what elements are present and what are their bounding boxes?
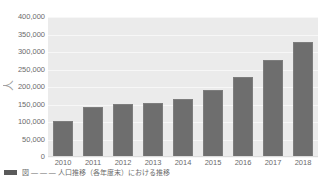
- bar-slot: [258, 17, 288, 157]
- bar-2017: [263, 60, 283, 157]
- y-axis-tick-labels: 050,000100,000150,000200,000250,000300,0…: [0, 0, 45, 176]
- bar-2011: [83, 107, 103, 157]
- x-axis-baseline: [48, 156, 318, 157]
- y-tick-label: 350,000: [1, 31, 45, 39]
- x-tick-label: 2012: [108, 158, 138, 168]
- figure-caption: 図 ― ― ― 人口推移（各年度末）における推移: [4, 169, 318, 176]
- bar-slot: [168, 17, 198, 157]
- y-tick-label: 50,000: [1, 136, 45, 144]
- y-tick-label: 100,000: [1, 118, 45, 126]
- bar-2016: [233, 77, 253, 158]
- bar-2014: [173, 99, 193, 157]
- x-tick-label: 2015: [198, 158, 228, 168]
- bar-slot: [48, 17, 78, 157]
- bar-2012: [113, 104, 133, 157]
- y-tick-label: 400,000: [1, 13, 45, 21]
- x-tick-label: 2011: [78, 158, 108, 168]
- x-tick-label: 2013: [138, 158, 168, 168]
- bar-slot: [198, 17, 228, 157]
- y-tick-label: 200,000: [1, 83, 45, 91]
- bar-2015: [203, 90, 223, 157]
- y-tick-label: 0: [1, 153, 45, 161]
- bar-2013: [143, 103, 163, 157]
- bar-slot: [138, 17, 168, 157]
- x-tick-label: 2016: [228, 158, 258, 168]
- x-tick-label: 2014: [168, 158, 198, 168]
- y-tick-label: 250,000: [1, 66, 45, 74]
- bar-chart-figure: 人 050,000100,000150,000200,000250,000300…: [0, 0, 322, 176]
- bar-slot: [288, 17, 318, 157]
- x-axis-tick-labels: 201020112012201320142015201620172018: [48, 158, 318, 168]
- y-tick-label: 300,000: [1, 48, 45, 56]
- bar-slot: [228, 17, 258, 157]
- bar-slot: [78, 17, 108, 157]
- x-tick-label: 2018: [288, 158, 318, 168]
- bar-series: [48, 17, 318, 157]
- x-tick-label: 2017: [258, 158, 288, 168]
- bar-2010: [53, 121, 73, 157]
- caption-text: 図 ― ― ― 人口推移（各年度末）における推移: [22, 169, 170, 176]
- plot-area: [48, 17, 318, 157]
- bar-slot: [108, 17, 138, 157]
- caption-marker-icon: [4, 170, 17, 175]
- x-tick-label: 2010: [48, 158, 78, 168]
- y-tick-label: 150,000: [1, 101, 45, 109]
- bar-2018: [293, 42, 313, 158]
